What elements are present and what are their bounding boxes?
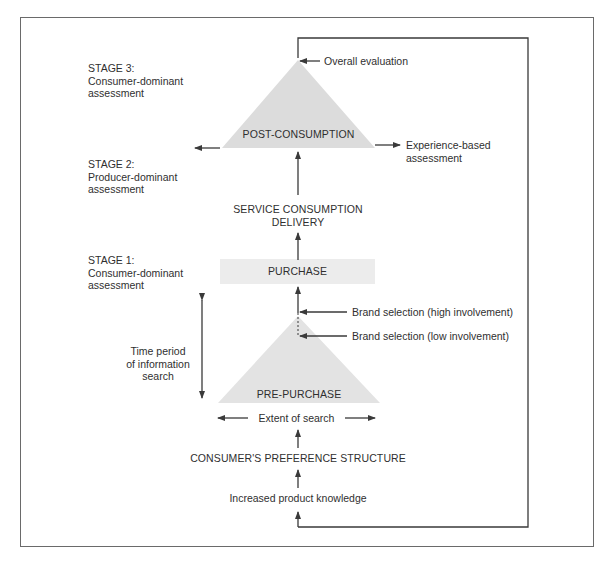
overall-evaluation-label: Overall evaluation xyxy=(324,55,408,68)
pre-purchase-label: PRE-PURCHASE xyxy=(218,388,380,401)
stage2-title: STAGE 2: xyxy=(88,158,177,171)
stage1-line2: assessment xyxy=(88,279,183,292)
stage3-line2: assessment xyxy=(88,87,183,100)
brand-high-label: Brand selection (high involvement) xyxy=(352,306,513,319)
post-consumption-label: POST-CONSUMPTION xyxy=(222,128,375,141)
extent-of-search-label: Extent of search xyxy=(248,412,345,425)
time-line1: Time period xyxy=(120,345,196,358)
experience-based-label: Experience-based assessment xyxy=(406,139,491,164)
brand-low-label: Brand selection (low involvement) xyxy=(352,330,509,343)
experience-line1: Experience-based xyxy=(406,139,491,152)
service-line1: SERVICE CONSUMPTION xyxy=(218,203,378,216)
stage3-line1: Consumer-dominant xyxy=(88,75,183,88)
stage2-line2: assessment xyxy=(88,183,177,196)
service-consumption-label: SERVICE CONSUMPTION DELIVERY xyxy=(218,203,378,228)
preference-structure-label: CONSUMER'S PREFERENCE STRUCTURE xyxy=(168,452,428,465)
time-line2: of information xyxy=(120,358,196,371)
stage1-title: STAGE 1: xyxy=(88,254,183,267)
stage1-label: STAGE 1: Consumer-dominant assessment xyxy=(88,254,183,292)
product-knowledge-label: Increased product knowledge xyxy=(198,492,398,505)
stage3-title: STAGE 3: xyxy=(88,62,183,75)
service-line2: DELIVERY xyxy=(218,216,378,229)
time-line3: search xyxy=(120,370,196,383)
stage1-line1: Consumer-dominant xyxy=(88,267,183,280)
purchase-label: PURCHASE xyxy=(220,265,375,278)
stage2-line1: Producer-dominant xyxy=(88,171,177,184)
stage3-label: STAGE 3: Consumer-dominant assessment xyxy=(88,62,183,100)
stage2-label: STAGE 2: Producer-dominant assessment xyxy=(88,158,177,196)
experience-line2: assessment xyxy=(406,152,491,165)
time-period-label: Time period of information search xyxy=(120,345,196,383)
